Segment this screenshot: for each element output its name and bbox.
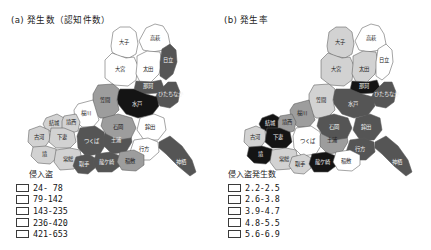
- region-label-sakaisai: 境西: [66, 118, 76, 126]
- region-label-naka: 那珂: [359, 82, 370, 90]
- region-label-hokota: 鉾田: [145, 123, 155, 131]
- region-label-takahagi: 高萩: [150, 34, 161, 42]
- region-label-shimotsuma: 下妻: [57, 133, 68, 141]
- legend-b-row-1[interactable]: 2.2-2.5: [228, 182, 280, 194]
- legend-swatch-icon-5: [16, 230, 29, 238]
- region-label-inashiki: 稲敷: [341, 157, 352, 165]
- region-label-tsukuba: つくば: [300, 137, 316, 145]
- legend-a-label-2: 79-142: [33, 194, 63, 204]
- region-label-koga: 古河: [34, 133, 45, 141]
- region-label-toride: 取手: [79, 160, 90, 168]
- region-label-kamisu: 神栖: [392, 158, 403, 166]
- legend-a-label-4: 236-420: [33, 218, 68, 228]
- region-label-takahagi: 高萩: [366, 34, 377, 42]
- region-label-sakaisai: 境西: [282, 118, 292, 126]
- legend-swatch-icon-4: [16, 218, 29, 226]
- region-label-joso: 常総: [63, 155, 74, 163]
- legend-b-row-2[interactable]: 2.6-3.8: [228, 194, 280, 206]
- legend-b-label-2: 2.6-3.8: [245, 194, 280, 204]
- region-label-ota: 太田: [143, 65, 153, 73]
- region-label-omiya: 大宮: [331, 65, 341, 73]
- legend-a-row-4[interactable]: 236-420: [16, 217, 68, 229]
- region-label-ota: 太田: [359, 65, 369, 73]
- region-label-sakuragawa: 桜川: [297, 109, 307, 117]
- region-label-kasama: 笠間: [100, 96, 110, 104]
- region-label-hitachi: 日立: [379, 56, 389, 64]
- legend-swatch-icon-4: [228, 218, 241, 226]
- legend-b-label-5: 5.6-6.9: [245, 229, 280, 239]
- legend-a-label-1: 24- 78: [33, 183, 63, 193]
- legend-a-label-5: 421-653: [33, 229, 68, 239]
- legend-a-row-1[interactable]: 24- 78: [16, 182, 68, 194]
- legend-swatch-icon-3: [228, 207, 241, 215]
- legend-a-label-3: 143-235: [33, 206, 68, 216]
- region-label-tsukuba: つくば: [84, 137, 100, 145]
- region-label-namegata: 行方: [355, 145, 365, 153]
- region-label-mito: 水戸: [132, 100, 142, 108]
- legend-b: 侵入盗発生数 2.2-2.5 2.6-3.8 3.9-4.7 4.8-5.5 5…: [228, 168, 280, 240]
- region-label-namegata: 行方: [139, 145, 149, 153]
- map-a-regions: [28, 24, 196, 176]
- legend-a: 侵入盗 24- 78 79-142 143-235 236-420 421-65…: [16, 168, 68, 240]
- region-label-hokota: 鉾田: [361, 123, 371, 131]
- region-label-hitachinaka: ひたちなか: [374, 91, 400, 98]
- legend-a-row-3[interactable]: 143-235: [16, 205, 68, 217]
- region-label-kasama: 笠間: [316, 96, 326, 104]
- legend-b-label-1: 2.2-2.5: [245, 183, 280, 193]
- legend-swatch-icon-1: [228, 184, 241, 192]
- legend-b-row-5[interactable]: 5.6-6.9: [228, 228, 280, 240]
- region-label-ryugasaki: 龍ケ崎: [315, 158, 331, 166]
- legend-a-title: 侵入盗: [29, 168, 68, 179]
- region-label-shimotsuma: 下妻: [273, 133, 284, 141]
- legend-b-label-4: 4.8-5.5: [245, 218, 280, 228]
- map-b-regions: [244, 24, 412, 176]
- legend-b-title: 侵入盗発生数: [228, 168, 280, 179]
- region-label-ishioka: 石岡: [329, 124, 339, 131]
- region-label-koga: 古河: [250, 133, 261, 141]
- legend-b-row-3[interactable]: 3.9-4.7: [228, 205, 280, 217]
- figure-root: (a) 発生数（認知件数）: [0, 0, 431, 250]
- legend-swatch-icon-2: [228, 195, 241, 203]
- region-kamisu[interactable]: [375, 136, 412, 176]
- region-label-hitachi: 日立: [163, 56, 173, 64]
- region-label-tsuchiura: 土浦: [327, 136, 338, 144]
- region-label-tsuchiura: 土浦: [111, 136, 122, 144]
- region-label-ishioka: 石岡: [113, 124, 123, 131]
- legend-swatch-icon-1: [16, 184, 29, 192]
- legend-b-label-3: 3.9-4.7: [245, 206, 280, 216]
- region-label-ryugasaki: 龍ケ崎: [99, 158, 115, 166]
- region-label-naka: 那珂: [143, 82, 154, 90]
- region-label-mito: 水戸: [348, 100, 358, 108]
- region-label-daigo: 大子: [335, 38, 346, 46]
- region-label-joso: 常総: [279, 155, 290, 163]
- panel-a: (a) 発生数（認知件数）: [0, 0, 215, 250]
- legend-swatch-icon-2: [16, 195, 29, 203]
- legend-swatch-icon-3: [16, 207, 29, 215]
- legend-a-row-2[interactable]: 79-142: [16, 194, 68, 206]
- region-label-hitachinaka: ひたちなか: [158, 91, 184, 98]
- legend-swatch-icon-5: [228, 230, 241, 238]
- region-label-sakuragawa: 桜川: [81, 109, 91, 117]
- region-kamisu[interactable]: [159, 136, 196, 176]
- legend-a-row-5[interactable]: 421-653: [16, 228, 68, 240]
- region-label-yuki: 結城: [265, 119, 276, 127]
- region-label-inashiki: 稲敷: [125, 157, 136, 165]
- region-label-kamisu: 神栖: [176, 158, 187, 166]
- region-label-toride: 取手: [295, 160, 306, 168]
- panel-b: (b) 発生率: [216, 0, 431, 250]
- region-label-yuki: 結城: [49, 119, 60, 127]
- region-label-omiya: 大宮: [115, 65, 125, 73]
- legend-b-row-4[interactable]: 4.8-5.5: [228, 217, 280, 229]
- region-label-daigo: 大子: [119, 38, 130, 46]
